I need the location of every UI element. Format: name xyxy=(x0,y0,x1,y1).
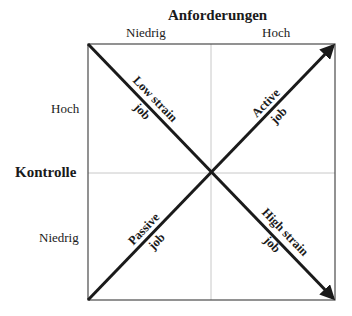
svg-text:Low strain: Low strain xyxy=(130,73,180,124)
svg-text:High strain: High strain xyxy=(259,205,311,258)
job-strain-diagram: Low strain job Active job Passive job Hi… xyxy=(0,0,352,316)
high-strain-job-label: High strain job xyxy=(246,205,311,271)
